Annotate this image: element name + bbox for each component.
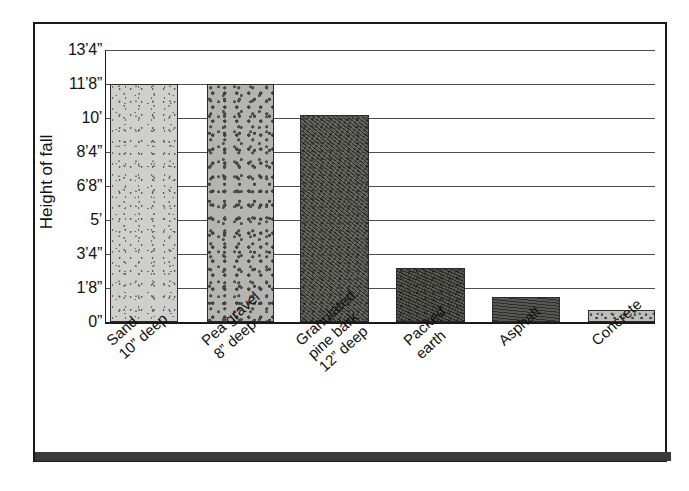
- gridline-10ft: [105, 118, 655, 119]
- gridline-3ft4in: [105, 254, 655, 255]
- y-tick-label: 3’4”: [18, 245, 102, 263]
- plot-area: 13’4” 11’8” 10’ 8’4” 6’8” 5’ 3’4” 1’8” 0…: [0, 0, 689, 491]
- y-axis-line: [105, 50, 106, 323]
- chart-figure: 13’4” 11’8” 10’ 8’4” 6’8” 5’ 3’4” 1’8” 0…: [0, 0, 689, 491]
- gridline-13ft4in: [105, 50, 655, 51]
- bar-pea-gravel: [207, 84, 274, 322]
- gridline-1ft8in: [105, 288, 655, 289]
- gridline-6ft8in: [105, 186, 655, 187]
- bar-sand: [110, 84, 178, 322]
- y-tick-label: 6’8”: [18, 177, 102, 195]
- gridline-5ft: [105, 220, 655, 221]
- gridline-11ft8in: [105, 84, 655, 85]
- gridline-8ft4in: [105, 152, 655, 153]
- y-tick-label: 5’: [18, 211, 102, 229]
- y-tick-label: 8’4”: [18, 143, 102, 161]
- y-axis-title: Height of fall: [37, 107, 57, 257]
- y-tick-label: 1’8”: [18, 279, 102, 297]
- bar-pine-bark: [300, 115, 369, 322]
- y-tick-label: 13’4”: [18, 41, 102, 59]
- y-tick-label: 0”: [18, 313, 102, 331]
- y-tick-label: 11’8”: [18, 75, 102, 93]
- y-tick-label: 10’: [18, 109, 102, 127]
